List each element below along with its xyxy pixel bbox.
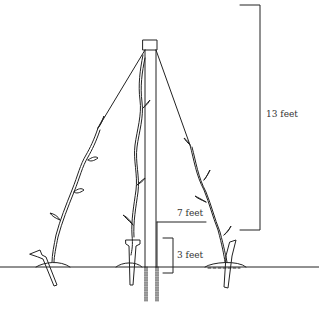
vine-middle [123,55,150,255]
trellis-diagram [0,0,319,309]
central-pole [143,40,158,302]
label-3-feet: 3 feet [177,250,203,260]
label-13-feet: 13 feet [266,109,298,119]
string-left [98,50,145,128]
vine-left [50,116,104,262]
dimension-13-feet [240,5,260,230]
label-7-feet: 7 feet [177,208,203,218]
dimension-3-feet [163,238,173,273]
stake-right [224,240,236,288]
string-right [156,50,190,145]
mound-left [36,262,70,267]
vine-right [184,138,231,262]
